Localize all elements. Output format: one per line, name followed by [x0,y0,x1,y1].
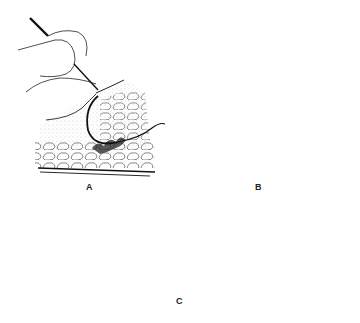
panel-b-label: B [255,182,262,192]
panel-c-label: C [176,296,183,306]
surgical-illustration: A B C [0,0,360,323]
panel-a-label: A [86,182,93,192]
illustration-svg [0,0,360,323]
panel-a [18,18,165,176]
